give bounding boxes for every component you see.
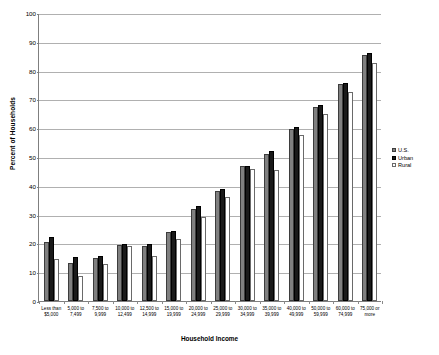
x-tick-mark — [64, 301, 65, 304]
y-tick-label: 50 — [10, 155, 36, 161]
bar-group — [309, 14, 334, 301]
bar-group — [88, 14, 113, 301]
bar-rural — [274, 170, 279, 301]
x-tick-mark — [382, 301, 383, 304]
bar-group — [64, 14, 89, 301]
bar-group — [260, 14, 285, 301]
bar-group — [186, 14, 211, 301]
y-tick-label: 20 — [10, 241, 36, 247]
bar-group — [137, 14, 162, 301]
x-tick-mark — [284, 301, 285, 304]
bar-rural — [250, 169, 255, 301]
y-tick-label: 40 — [10, 184, 36, 190]
x-tick-mark — [137, 301, 138, 304]
y-tick-label: 100 — [10, 11, 36, 17]
y-tick-label: 0 — [10, 299, 36, 305]
bar-rural — [54, 259, 59, 301]
bar-rural — [299, 135, 304, 301]
bar-rural — [323, 114, 328, 301]
bar-group — [333, 14, 358, 301]
x-tick-mark — [39, 301, 40, 304]
x-tick-mark — [235, 301, 236, 304]
y-tick-label: 80 — [10, 69, 36, 75]
bar-rural — [372, 63, 377, 301]
legend-item: Urban — [392, 155, 413, 161]
bar-groups: Less than $5,0005,000 to 7,4997,500 to 9… — [39, 14, 381, 301]
x-tick-mark — [113, 301, 114, 304]
y-tick-label: 30 — [10, 213, 36, 219]
legend-swatch-icon — [392, 148, 396, 152]
bar-rural — [127, 246, 132, 301]
x-tick-mark — [309, 301, 310, 304]
x-tick-mark — [162, 301, 163, 304]
bar-rural — [348, 92, 353, 301]
bar-group — [39, 14, 64, 301]
y-tick-label: 90 — [10, 40, 36, 46]
y-axis-title: Percent of Households — [9, 79, 16, 189]
bar-group — [284, 14, 309, 301]
plot-area: 0102030405060708090100 Less than $5,0005… — [38, 14, 381, 302]
legend-item: Rural — [392, 162, 413, 168]
x-axis-title: Household Income — [38, 335, 381, 342]
x-tick-mark — [211, 301, 212, 304]
x-tick-mark — [88, 301, 89, 304]
bar-group — [113, 14, 138, 301]
legend: U.S.UrbanRural — [392, 147, 413, 168]
bar-group — [162, 14, 187, 301]
legend-label: U.S. — [398, 147, 409, 153]
bar-rural — [201, 217, 206, 301]
legend-swatch-icon — [392, 156, 396, 160]
bar-group — [235, 14, 260, 301]
bar-chart: Percent of Households 010203040506070809… — [0, 0, 439, 355]
bar-rural — [225, 197, 230, 301]
legend-swatch-icon — [392, 163, 396, 167]
legend-item: U.S. — [392, 147, 413, 153]
x-tick-mark — [358, 301, 359, 304]
bar-rural — [78, 276, 83, 301]
y-tick-label: 70 — [10, 97, 36, 103]
bar-group — [358, 14, 383, 301]
x-tick-label: 75,000 or more — [355, 306, 386, 317]
bar-group — [211, 14, 236, 301]
y-tick-label: 10 — [10, 270, 36, 276]
bar-rural — [152, 256, 157, 301]
x-tick-mark — [333, 301, 334, 304]
x-tick-mark — [186, 301, 187, 304]
y-tick-label: 60 — [10, 126, 36, 132]
x-tick-mark — [260, 301, 261, 304]
legend-label: Rural — [398, 162, 411, 168]
legend-label: Urban — [398, 155, 413, 161]
bar-rural — [176, 239, 181, 301]
bar-rural — [103, 264, 108, 301]
